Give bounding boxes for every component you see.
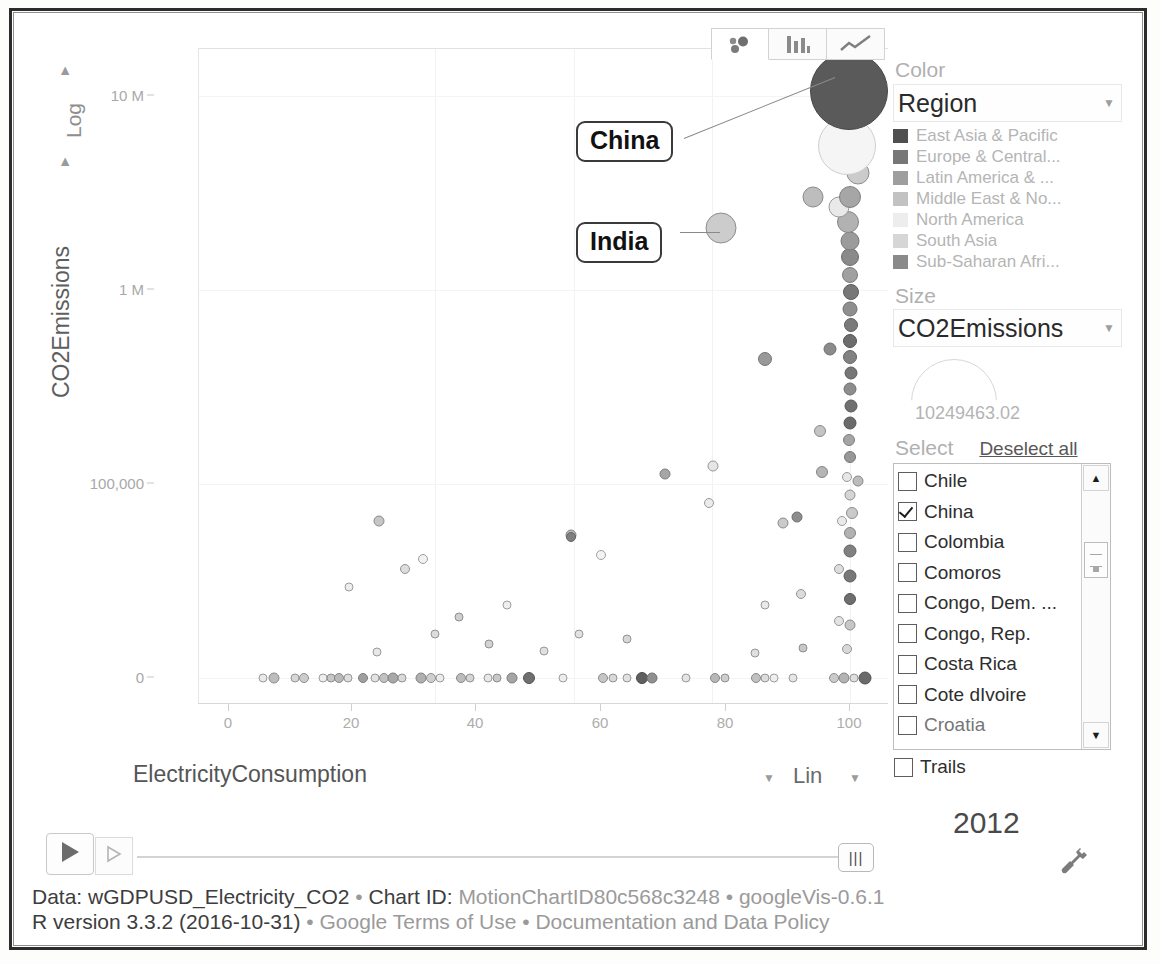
bubble-point[interactable]: [834, 564, 844, 574]
bubble-point[interactable]: [816, 466, 828, 478]
bubble-point[interactable]: [704, 498, 714, 508]
settings-wrench-icon[interactable]: [1058, 845, 1092, 881]
bubble-point[interactable]: [721, 674, 730, 683]
bubble-point[interactable]: [751, 673, 761, 683]
speed-button[interactable]: [95, 837, 133, 875]
bubble-point[interactable]: [540, 647, 549, 656]
bubble-point[interactable]: [844, 593, 856, 605]
scrollbar-thumb[interactable]: [1084, 542, 1108, 578]
bubble-point[interactable]: [761, 674, 770, 683]
bubble-point[interactable]: [647, 673, 658, 684]
bubble-point[interactable]: [374, 516, 385, 527]
checkbox[interactable]: [898, 472, 917, 491]
bubble-point[interactable]: [834, 616, 844, 626]
bubble-point[interactable]: [845, 367, 858, 380]
bubble-point-china[interactable]: [810, 52, 888, 130]
bubble-point[interactable]: [844, 318, 858, 332]
x-axis-variable-caret-icon[interactable]: ▼: [763, 771, 775, 785]
bubble-point[interactable]: [358, 673, 368, 683]
checkbox[interactable]: [898, 502, 917, 521]
checkbox[interactable]: [898, 594, 917, 613]
bubble-point[interactable]: [609, 674, 618, 683]
bubble-point[interactable]: [770, 674, 779, 683]
bubble-point[interactable]: [839, 186, 861, 208]
bubble-chart-tab[interactable]: [711, 28, 769, 60]
bubble-point[interactable]: [426, 673, 436, 683]
bubble-point[interactable]: [846, 507, 858, 519]
legend-item[interactable]: Latin America & ...: [893, 167, 1138, 188]
bubble-point[interactable]: [466, 674, 475, 683]
play-button[interactable]: [46, 833, 94, 875]
bubble-point[interactable]: [398, 674, 407, 683]
bubble-point[interactable]: [844, 545, 857, 558]
bubble-point[interactable]: [660, 469, 671, 480]
bubble-point[interactable]: [814, 425, 826, 437]
time-slider-track[interactable]: [137, 856, 857, 858]
plot-container[interactable]: 10 M 1 M 100,000 0 0 20 40 60 80 100: [198, 48, 888, 703]
bubble-point[interactable]: [843, 302, 858, 317]
bubble-point[interactable]: [842, 644, 852, 654]
legend-item[interactable]: Sub-Saharan Afri...: [893, 251, 1138, 272]
bubble-point-india[interactable]: [706, 213, 737, 244]
callout-india[interactable]: India: [576, 222, 662, 263]
size-variable-select[interactable]: CO2Emissions ▼: [893, 309, 1122, 347]
list-item[interactable]: Comoros: [898, 558, 1081, 589]
list-item[interactable]: Cote dIvoire: [898, 680, 1081, 711]
bubble-point[interactable]: [844, 570, 857, 583]
trails-option[interactable]: Trails: [894, 756, 1138, 778]
bubble-point[interactable]: [843, 284, 859, 300]
bubble-point[interactable]: [485, 640, 494, 649]
bubble-point[interactable]: [842, 267, 858, 283]
bubble-point[interactable]: [844, 527, 856, 539]
bubble-point[interactable]: [455, 613, 464, 622]
time-slider-handle[interactable]: |||: [838, 843, 874, 872]
bubble-point[interactable]: [837, 516, 847, 526]
bubble-point[interactable]: [799, 644, 808, 653]
checkbox[interactable]: [898, 716, 917, 735]
bubble-point[interactable]: [839, 673, 850, 684]
bubble-point[interactable]: [761, 601, 770, 610]
bubble-point[interactable]: [845, 620, 856, 631]
bubble-point[interactable]: [623, 674, 632, 683]
list-item[interactable]: Congo, Dem. ...: [898, 588, 1081, 619]
bubble-point[interactable]: [844, 451, 856, 463]
bubble-point[interactable]: [575, 630, 584, 639]
bubble-point[interactable]: [269, 673, 280, 684]
bubble-point[interactable]: [507, 673, 518, 684]
bubble-point[interactable]: [503, 601, 512, 610]
bubble-point[interactable]: [859, 672, 872, 685]
y-scale-selector[interactable]: Log: [62, 103, 86, 138]
bubble-point[interactable]: [844, 383, 857, 396]
legend-item[interactable]: Europe & Central...: [893, 146, 1138, 167]
bubble-point[interactable]: [523, 672, 535, 684]
bubble-point[interactable]: [345, 583, 354, 592]
bubble-point[interactable]: [829, 673, 839, 683]
legend-item[interactable]: North America: [893, 209, 1138, 230]
bubble-point[interactable]: [758, 352, 772, 366]
bubble-point[interactable]: [844, 417, 857, 430]
legend-item[interactable]: East Asia & Pacific: [893, 125, 1138, 146]
bubble-point[interactable]: [682, 674, 691, 683]
bubble-point[interactable]: [824, 343, 837, 356]
list-item[interactable]: Chile: [898, 466, 1081, 497]
legend-item[interactable]: South Asia: [893, 230, 1138, 251]
country-select-box[interactable]: Chile China Colombia Comoros Congo, Dem.…: [893, 463, 1111, 750]
bubble-point[interactable]: [334, 673, 344, 683]
y-scale-arrow-down-icon[interactable]: ▶: [58, 158, 71, 166]
scroll-down-button[interactable]: ▼: [1083, 722, 1109, 748]
bubble-point[interactable]: [843, 350, 857, 364]
x-axis-title[interactable]: ElectricityConsumption: [133, 761, 367, 788]
bar-chart-tab[interactable]: [769, 28, 827, 60]
checkbox[interactable]: [898, 685, 917, 704]
list-item[interactable]: Congo, Rep.: [898, 619, 1081, 650]
bubble-point[interactable]: [841, 248, 859, 266]
bubble-point[interactable]: [598, 673, 608, 683]
bubble-point[interactable]: [566, 532, 576, 542]
bubble-point[interactable]: [803, 187, 824, 208]
bubble-point[interactable]: [299, 673, 309, 683]
deselect-all-link[interactable]: Deselect all: [979, 438, 1077, 460]
bubble-point[interactable]: [751, 649, 760, 658]
bubble-point[interactable]: [845, 400, 858, 413]
bubble-point[interactable]: [456, 673, 466, 683]
legend-item[interactable]: Middle East & No...: [893, 188, 1138, 209]
